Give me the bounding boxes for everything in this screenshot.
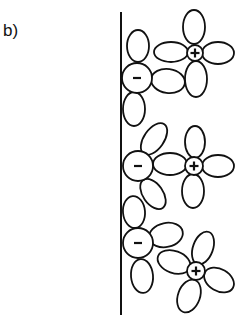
orbital-lobe bbox=[123, 92, 145, 126]
orbital-lobe bbox=[185, 61, 207, 97]
cation-orbital-group bbox=[182, 126, 234, 208]
orbital-lobe bbox=[188, 229, 218, 268]
orbital-lobe bbox=[182, 174, 204, 208]
orbital-lobe bbox=[202, 42, 234, 64]
anion-orbital-group bbox=[122, 195, 185, 294]
ions-layer bbox=[122, 10, 239, 315]
orbital-lobe bbox=[202, 155, 234, 177]
orbital-lobe bbox=[122, 195, 147, 229]
orbital-lobe bbox=[173, 276, 205, 315]
orbital-lobe bbox=[149, 67, 186, 95]
orbital-lobe bbox=[183, 10, 205, 44]
orbital-lobe bbox=[185, 126, 205, 158]
ion-adsorption-diagram bbox=[0, 0, 246, 315]
orbital-lobe bbox=[130, 258, 155, 294]
orbital-lobe bbox=[200, 262, 239, 297]
orbital-lobe bbox=[153, 153, 187, 175]
orbital-lobe bbox=[154, 42, 188, 62]
orbital-lobe bbox=[127, 30, 149, 62]
